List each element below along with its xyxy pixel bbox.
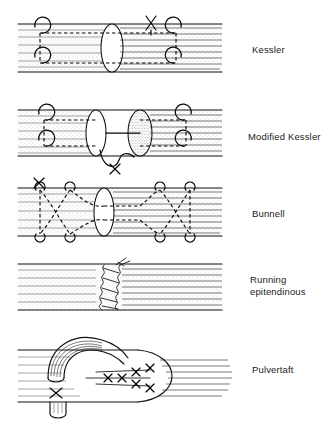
- kessler-illustration: [0, 8, 240, 90]
- bunnell-illustration: [0, 180, 240, 252]
- panel-kessler: Kessler: [0, 8, 327, 90]
- panel-pulvertaft: Pulvertaft: [0, 326, 327, 418]
- panel-label-kessler: Kessler: [252, 44, 285, 56]
- panel-running-epitendinous: Running epitendinous: [0, 252, 327, 328]
- pulvertaft-tendon-stub: [50, 402, 66, 418]
- panel-label-bunnell: Bunnell: [252, 208, 285, 220]
- panel-label-pulvertaft: Pulvertaft: [252, 364, 294, 376]
- panel-label-modified-kessler: Modified Kessler: [248, 131, 321, 143]
- running-epitendinous-illustration: [0, 252, 240, 328]
- panel-modified-kessler: Modified Kessler: [0, 98, 327, 178]
- panel-bunnell: Bunnell: [0, 180, 327, 252]
- tendon-repair-figure: Kessler: [0, 0, 327, 421]
- modified-kessler-illustration: [0, 98, 240, 178]
- panel-label-running-epitendinous: Running epitendinous: [250, 274, 306, 297]
- pulvertaft-illustration: [0, 326, 240, 418]
